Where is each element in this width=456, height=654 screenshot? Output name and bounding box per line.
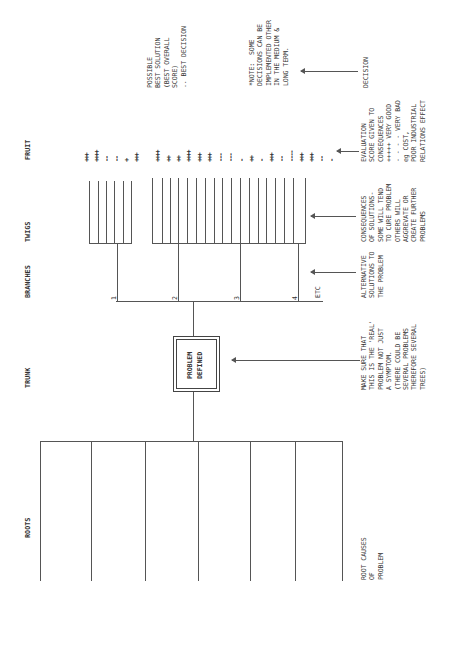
fruit-score: ---	[228, 154, 234, 162]
header-trunk: TRUNK	[24, 368, 32, 388]
arrow-to-fruit	[337, 151, 359, 152]
header-twigs: TWIGS	[24, 222, 32, 242]
twig	[240, 178, 241, 243]
fruit-score: ++++	[94, 151, 100, 162]
fruit-score: ++	[249, 157, 255, 162]
fruit-score: +	[124, 159, 130, 162]
branch-number-1: 1	[110, 296, 118, 300]
fruit-score: +++	[269, 154, 275, 162]
twig	[196, 178, 197, 243]
twig	[266, 178, 267, 243]
root-line	[250, 441, 251, 581]
fruit-score: +++	[84, 154, 90, 162]
twig	[305, 178, 306, 243]
fruit-score: +++	[197, 154, 203, 162]
fruit-score: +++	[134, 154, 140, 162]
fruit-score: --	[114, 157, 120, 162]
branch-number-4: 4	[291, 296, 299, 300]
fruit-score: -	[329, 159, 335, 162]
root-line	[91, 441, 92, 581]
annotation-decision: DECISION	[362, 57, 370, 88]
twig	[123, 181, 124, 243]
branch-2-line	[178, 243, 179, 301]
header-branches: BRANCHES	[24, 265, 32, 298]
fruit-score: +++	[207, 154, 213, 162]
problem-defined-box: PROBLEM DEFINED	[173, 336, 220, 392]
twig	[131, 181, 132, 243]
branch-number-2: 2	[171, 296, 179, 300]
twig	[106, 181, 107, 243]
twig	[249, 178, 250, 243]
branch-4-line	[298, 243, 299, 301]
problem-defined-line2: DEFINED	[196, 352, 204, 379]
twig	[170, 178, 171, 243]
root-line	[198, 441, 199, 581]
twig	[114, 181, 115, 243]
root-line	[342, 441, 343, 581]
twig	[231, 178, 232, 243]
twig-bar	[89, 243, 132, 244]
twig	[205, 178, 206, 243]
twig	[162, 178, 163, 243]
root-line	[145, 441, 146, 581]
fruit-score: ++++	[155, 151, 161, 162]
fruit-score: --	[104, 157, 110, 162]
problem-defined-line1: PROBLEM	[186, 352, 194, 379]
twig	[152, 178, 153, 243]
fruit-score: ---	[218, 154, 224, 162]
header-roots: ROOTS	[24, 518, 32, 538]
twig	[258, 178, 259, 243]
annotation-note: *NOTE: SOME DECISIONS CAN BE IMPLEMENTED…	[248, 20, 290, 86]
annotation-twigs: CONSEQUENCES OF SOLUTIONS- SOME WILL TEN…	[360, 184, 427, 242]
arrow-to-trunk	[232, 360, 360, 361]
branch-etc-label: ETC	[314, 286, 322, 298]
annotation-fruit: EVALUATION SCORE GIVEN TO CONSEQUENCES +…	[360, 100, 427, 162]
branch-3-line	[240, 243, 241, 301]
twig	[293, 178, 294, 243]
fruit-score: -	[259, 159, 265, 162]
fruit-score: ++	[176, 157, 182, 162]
fruit-score: ----	[289, 151, 295, 162]
fruit-score: +++	[299, 154, 305, 162]
branch-number-3: 3	[233, 296, 241, 300]
annotation-best-solution: POSSIBLE BEST SOLUTION (BEST OVERALL SCO…	[146, 26, 188, 88]
twig	[178, 178, 179, 243]
header-fruit: FRUIT	[24, 140, 32, 160]
annotation-trunk: MAKE SURE THAT THIS IS THE 'REAL' PROBLE…	[360, 320, 427, 390]
arrow-to-twigs	[311, 216, 356, 217]
fruit-score: --	[279, 157, 285, 162]
fruit-score: ++	[166, 157, 172, 162]
twig	[187, 178, 188, 243]
root-line	[295, 441, 296, 581]
branch-crossbar	[116, 301, 323, 302]
roots-crossbar	[40, 441, 343, 442]
twig	[275, 178, 276, 243]
twig-bar	[152, 243, 306, 244]
fruit-score: +++	[309, 154, 315, 162]
arrow-to-note	[301, 71, 358, 72]
annotation-branches: ALTERNATIVE SOLUTIONS TO THE PROBLEM	[360, 252, 385, 298]
branch-1-line	[117, 243, 118, 301]
fruit-score: --	[319, 157, 325, 162]
fruit-score: -	[239, 159, 245, 162]
fruit-score: ++++	[186, 151, 192, 162]
twig	[284, 178, 285, 243]
twig	[222, 178, 223, 243]
twig	[214, 178, 215, 243]
arrow-to-branches	[311, 272, 356, 273]
twig	[98, 181, 99, 243]
root-line	[40, 441, 41, 581]
twig	[89, 181, 90, 243]
annotation-roots: ROOT CAUSES OF PROBLEM	[360, 537, 385, 580]
